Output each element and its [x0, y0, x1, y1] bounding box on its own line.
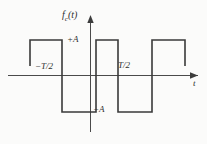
x-axis-label: t	[193, 79, 196, 88]
amplitude-positive-label: +A	[67, 35, 79, 44]
negative-half-period-label: −T/2	[35, 62, 53, 71]
x-axis	[8, 72, 198, 78]
square-wave-figure: fc(t) +A −A −T/2 T/2 t	[0, 0, 207, 144]
positive-half-period-label: T/2	[118, 61, 130, 70]
plot-canvas	[0, 0, 207, 144]
y-axis-arrow-icon	[87, 15, 93, 23]
y-axis-label-argument: (t)	[68, 9, 77, 20]
y-axis	[87, 15, 93, 132]
y-axis-label: fc(t)	[62, 10, 77, 23]
amplitude-negative-label: −A	[93, 105, 105, 114]
